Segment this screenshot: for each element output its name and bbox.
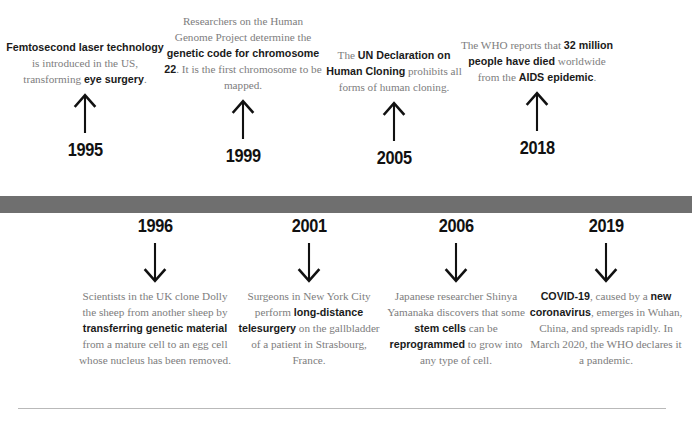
timeline-infographic: Femtosecond laser technology is introduc…: [0, 0, 692, 422]
arrow-down-icon: [443, 242, 469, 284]
event-year: 2001: [292, 216, 327, 235]
timeline-event-2005: The UN Declaration on Human Cloning proh…: [318, 48, 470, 167]
event-description: The WHO reports that 32 million people h…: [458, 38, 616, 86]
event-year: 1995: [68, 140, 103, 159]
arrow-up-icon: [381, 100, 407, 142]
arrow-down-icon: [593, 242, 619, 284]
timeline-event-2006: 2006 Japanese researcher Shinya Yamanaka…: [386, 216, 526, 369]
arrow-up-icon: [230, 98, 256, 140]
bottom-divider: [18, 408, 666, 409]
event-year: 2005: [377, 148, 412, 167]
arrow-up-icon: [72, 92, 98, 134]
arrow-down-icon: [296, 242, 322, 284]
timeline-event-2018: The WHO reports that 32 million people h…: [458, 38, 616, 157]
event-year: 2018: [520, 138, 555, 157]
event-description: Femtosecond laser technology is introduc…: [4, 40, 166, 88]
event-description: Scientists in the UK clone Dolly the she…: [76, 289, 234, 369]
timeline-event-1995: Femtosecond laser technology is introduc…: [4, 40, 166, 159]
event-description: Surgeons in New York City perform long-d…: [238, 289, 380, 369]
timeline-axis-bar: [0, 196, 692, 213]
event-year: 1999: [226, 146, 261, 165]
event-description: COVID-19, caused by a new coronavirus, e…: [527, 289, 685, 369]
event-year: 2019: [589, 216, 624, 235]
event-description: Researchers on the Human Genome Project …: [163, 14, 323, 94]
timeline-event-1999: Researchers on the Human Genome Project …: [163, 14, 323, 165]
timeline-event-2001: 2001 Surgeons in New York City perform l…: [238, 216, 380, 369]
timeline-event-1996: 1996 Scientists in the UK clone Dolly th…: [76, 216, 234, 369]
event-year: 2006: [439, 216, 474, 235]
arrow-down-icon: [142, 242, 168, 284]
event-year: 1996: [138, 216, 173, 235]
event-description: The UN Declaration on Human Cloning proh…: [318, 48, 470, 96]
timeline-event-2019: 2019 COVID-19, caused by a new coronavir…: [527, 216, 685, 369]
arrow-up-icon: [524, 90, 550, 132]
event-description: Japanese researcher Shinya Yamanaka disc…: [386, 289, 526, 369]
